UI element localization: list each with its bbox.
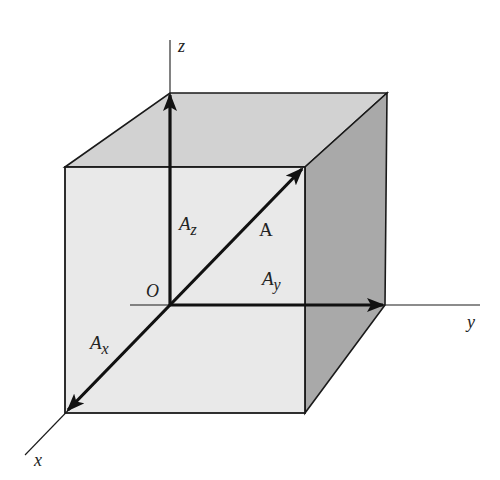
vector-Az-base: A	[177, 213, 191, 234]
vector-A-label: A	[259, 219, 273, 240]
vector-Az-subscript: z	[190, 221, 198, 238]
x-axis-label: x	[33, 450, 42, 470]
vector-diagram: z y x O A Az Ay Ax	[0, 0, 500, 480]
vector-Ax-base: A	[88, 332, 102, 353]
vector-Ay-subscript: y	[272, 276, 282, 294]
origin-label: O	[146, 281, 159, 301]
vector-Ay-base: A	[260, 268, 274, 289]
y-axis-label: y	[465, 312, 475, 332]
z-axis-label: z	[177, 36, 185, 56]
vector-Ax-subscript: x	[101, 340, 109, 357]
